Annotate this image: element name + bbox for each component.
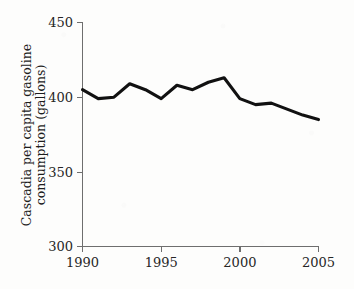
data-series-line <box>83 78 319 120</box>
y-axis-ticks <box>77 23 83 247</box>
y-tick-label-350: 350 <box>48 165 73 180</box>
x-axis-ticks <box>83 247 319 253</box>
x-tick-label-1990: 1990 <box>66 255 99 270</box>
y-tick-label-400: 400 <box>48 90 73 105</box>
y-axis-title-line-1: Cascadia per capita gasoline <box>19 44 34 226</box>
y-axis-title: Cascadia per capita gasoline consumption… <box>19 44 48 226</box>
x-axis-tick-labels: 1990 1995 2000 2005 <box>66 255 335 270</box>
x-tick-label-1995: 1995 <box>145 255 178 270</box>
y-tick-label-300: 300 <box>48 239 73 254</box>
line-chart: 450 400 350 300 1990 1995 2000 2005 Casc… <box>0 0 354 289</box>
y-tick-label-450: 450 <box>48 15 73 30</box>
y-axis-title-line-2: consumption (gallons) <box>33 65 48 206</box>
x-tick-label-2005: 2005 <box>302 255 335 270</box>
x-tick-label-2000: 2000 <box>223 255 256 270</box>
chart-page: 450 400 350 300 1990 1995 2000 2005 Casc… <box>0 0 354 289</box>
y-axis-tick-labels: 450 400 350 300 <box>48 15 73 254</box>
